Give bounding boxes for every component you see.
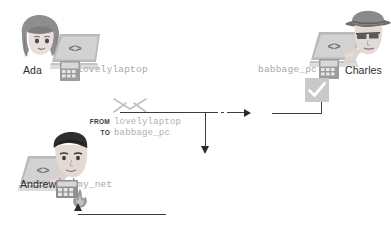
route-line-down bbox=[205, 112, 206, 148]
packet-from-value: lovelylaptop bbox=[114, 117, 181, 127]
packet-to-value: babbage_pc bbox=[114, 128, 170, 138]
charles-name-label: Charles bbox=[345, 64, 382, 76]
route-line-bottom bbox=[78, 214, 166, 215]
ada-name-label: Ada bbox=[23, 64, 42, 76]
charles-avatar-icon bbox=[343, 8, 391, 66]
packet-from-label: FROM bbox=[86, 118, 110, 125]
actor-andrew: <> bbox=[18, 130, 108, 206]
svg-text:<>: <> bbox=[327, 41, 341, 53]
packet-from-row: FROM lovelylaptop bbox=[86, 117, 181, 128]
route-arrow-right bbox=[244, 109, 251, 117]
andrew-name-label: Andrew bbox=[20, 178, 56, 190]
route-line-top bbox=[120, 112, 215, 113]
route-line-accept-horizontal bbox=[272, 113, 322, 114]
route-arrow-up-firewall bbox=[74, 203, 82, 211]
charles-host-label: babbage_pc bbox=[258, 64, 317, 75]
ada-host-label: lovelylaptop bbox=[77, 64, 148, 75]
diagram-canvas: <> Ada lovelylaptop <> bbox=[0, 0, 391, 242]
route-arrow-down bbox=[201, 146, 209, 154]
route-line-accept-vertical bbox=[321, 100, 322, 114]
packet-details: FROM lovelylaptop TO babbage_pc bbox=[86, 117, 181, 139]
packet-to-label: TO bbox=[86, 129, 110, 136]
packet-to-row: TO babbage_pc bbox=[86, 128, 181, 139]
svg-text:<>: <> bbox=[68, 43, 82, 55]
checkmark-box-icon bbox=[305, 78, 329, 102]
